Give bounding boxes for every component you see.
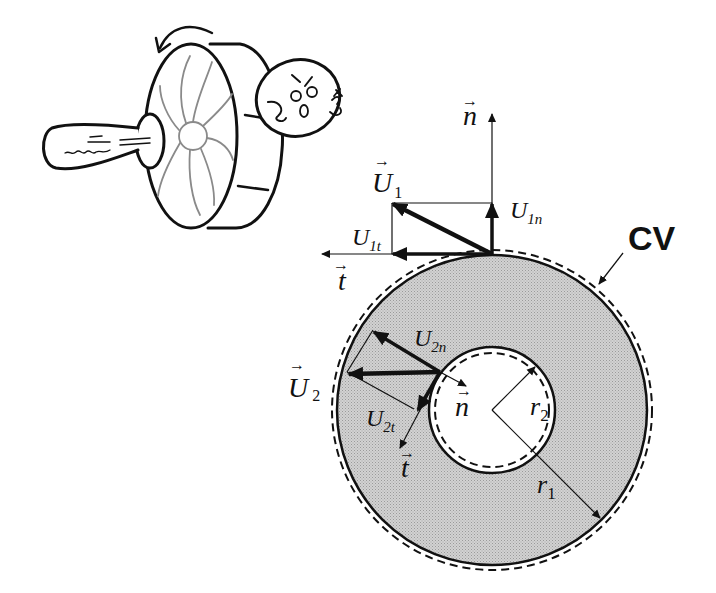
svg-text:U2: U2 bbox=[288, 372, 320, 404]
cv-label: CV bbox=[628, 219, 676, 257]
u1n-label: U bbox=[510, 197, 529, 223]
u1-label: U bbox=[372, 167, 394, 198]
impeller-illustration bbox=[43, 27, 349, 228]
u2-label: U bbox=[288, 372, 310, 403]
u2-subscript: 2 bbox=[312, 387, 320, 404]
u1-subscript: 1 bbox=[394, 184, 402, 201]
inlet-vectors bbox=[322, 114, 492, 255]
u2t-label: U bbox=[366, 405, 385, 431]
svg-text:U1t: U1t bbox=[352, 224, 382, 254]
u2n-subscript: 2n bbox=[431, 339, 446, 355]
svg-text:U1: U1 bbox=[372, 167, 402, 201]
u2t-subscript: 2t bbox=[383, 419, 396, 435]
u1n-subscript: 1n bbox=[527, 211, 542, 227]
cv-pointer-arrow bbox=[599, 253, 623, 284]
r2-subscript: 2 bbox=[540, 406, 549, 425]
svg-text:U1n: U1n bbox=[510, 197, 542, 227]
inlet-normal-arrow-accent: → bbox=[462, 92, 478, 109]
u2-arrow-accent: → bbox=[289, 356, 305, 373]
u1t-subscript: 1t bbox=[369, 238, 382, 254]
control-volume-diagram: r2 r1 CV n → t → U1 → U1n U1t bbox=[0, 0, 716, 593]
u2n-label: U bbox=[414, 325, 433, 351]
outlet-normal-arrow-accent: → bbox=[456, 382, 472, 399]
u1-arrow-accent: → bbox=[374, 152, 390, 169]
inlet-tangent-arrow-accent: → bbox=[333, 256, 349, 273]
outlet-tangent-arrow-accent: → bbox=[399, 444, 415, 461]
u1t-label: U bbox=[352, 224, 371, 250]
r1-subscript: 1 bbox=[547, 484, 556, 503]
